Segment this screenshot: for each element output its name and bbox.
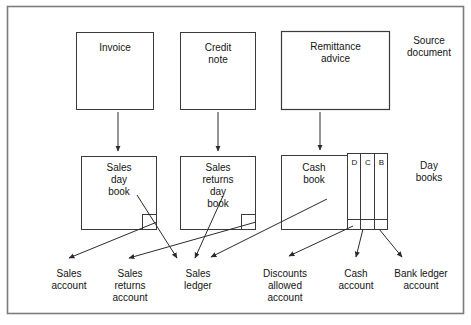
cash-book-column-discount-label: D bbox=[348, 158, 361, 167]
bank-ledger-account-label: Bank ledger account bbox=[380, 268, 462, 292]
sales-returns-day-book-notch bbox=[242, 215, 256, 230]
accounting-flow-diagram: Source document Day books Invoice Credit… bbox=[0, 0, 471, 325]
invoice-label: Invoice bbox=[76, 42, 154, 54]
cash-book-label: Cash book bbox=[282, 162, 346, 186]
row-label-source-document: Source document bbox=[393, 35, 465, 59]
credit-note-label: Credit note bbox=[180, 42, 256, 66]
sales-returns-account-label: Sales returns account bbox=[89, 268, 171, 304]
row-label-day-books: Day books bbox=[398, 160, 460, 184]
sales-day-book-label: Sales day book bbox=[82, 162, 156, 198]
discounts-allowed-account-label: Discounts allowed account bbox=[239, 268, 331, 304]
sales-returns-day-book-label: Sales returns day book bbox=[181, 162, 255, 210]
sales-ledger-label: Sales ledger bbox=[161, 268, 235, 292]
cash-book-column-cash-label: C bbox=[361, 158, 375, 167]
cash-book-column-bank-label: B bbox=[375, 158, 388, 167]
remittance-advice-label: Remittance advice bbox=[281, 41, 390, 65]
